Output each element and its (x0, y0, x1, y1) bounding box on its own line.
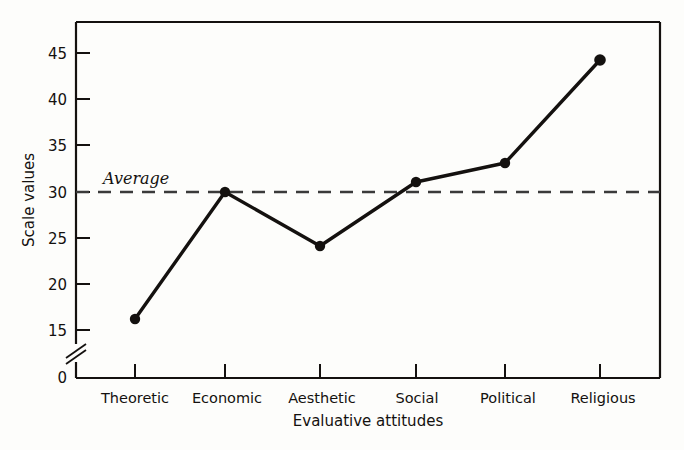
x-tick-label-theoretic: Theoretic (100, 390, 169, 406)
y-axis-tick-labels: 45 40 35 30 25 20 15 0 (48, 45, 67, 387)
plot-frame (76, 22, 660, 378)
x-axis-tick-labels: Theoretic Economic Aesthetic Social Poli… (100, 390, 636, 406)
x-tick-label-political: Political (480, 390, 536, 406)
average-annotation-label: Average (101, 169, 169, 188)
y-tick-label-zero: 0 (57, 369, 67, 387)
y-tick-label-25: 25 (48, 230, 67, 248)
y-tick-label-40: 40 (48, 91, 67, 109)
data-point-social (411, 177, 421, 187)
x-tick-label-aesthetic: Aesthetic (288, 390, 356, 406)
x-tick-label-social: Social (396, 390, 439, 406)
y-tick-label-15: 15 (48, 322, 67, 340)
data-point-economic (220, 187, 230, 197)
data-points (130, 54, 606, 324)
x-axis-ticks (135, 364, 600, 378)
y-axis-break-icon (66, 344, 86, 364)
data-point-religious (594, 54, 606, 66)
y-tick-label-45: 45 (48, 45, 67, 63)
data-point-theoretic (130, 314, 140, 324)
figure-container: 45 40 35 30 25 20 15 0 Scale values Aver… (0, 0, 684, 450)
x-axis-title: Evaluative attitudes (293, 412, 444, 430)
y-tick-label-35: 35 (48, 137, 67, 155)
data-point-aesthetic (315, 241, 325, 251)
y-tick-label-20: 20 (48, 276, 67, 294)
data-line-scale-values (135, 60, 600, 319)
x-tick-label-economic: Economic (192, 390, 262, 406)
y-tick-label-30: 30 (48, 184, 67, 202)
data-point-political (500, 158, 510, 168)
x-tick-label-religious: Religious (570, 390, 635, 406)
y-axis-title: Scale values (20, 153, 38, 247)
line-chart: 45 40 35 30 25 20 15 0 Scale values Aver… (0, 0, 684, 450)
